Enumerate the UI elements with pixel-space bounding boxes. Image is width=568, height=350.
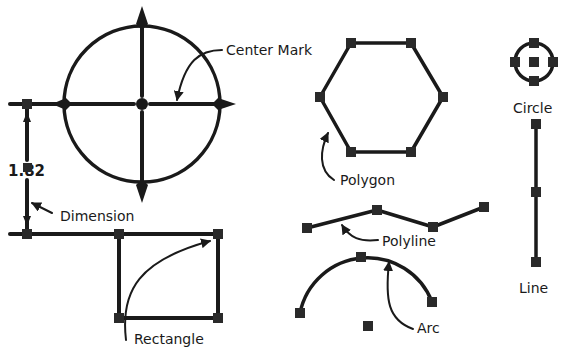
square-grip-icon[interactable] xyxy=(406,147,416,157)
square-grip-icon[interactable] xyxy=(346,147,356,157)
cad-grips-diagram: 1.82 xyxy=(0,0,568,350)
leader-polyline xyxy=(342,225,378,240)
square-grip-icon[interactable] xyxy=(372,205,382,215)
square-grip-icon[interactable] xyxy=(114,229,124,239)
hexagon-outline xyxy=(320,43,443,152)
square-grip-icon[interactable] xyxy=(346,38,356,48)
arc-shape xyxy=(295,252,437,331)
arc-path xyxy=(300,258,432,313)
line-shape xyxy=(531,119,541,267)
label-center-mark: Center Mark xyxy=(226,42,313,58)
square-grip-icon[interactable] xyxy=(114,313,124,323)
label-polyline: Polyline xyxy=(382,233,436,249)
label-rectangle: Rectangle xyxy=(134,331,204,347)
square-grip-icon[interactable] xyxy=(315,92,325,102)
square-grip-icon[interactable] xyxy=(406,38,416,48)
polyline-path xyxy=(307,207,484,228)
square-grip-icon[interactable] xyxy=(428,222,438,232)
leader-dimension xyxy=(32,203,52,213)
square-grip-icon[interactable] xyxy=(438,92,448,102)
square-grip-icon[interactable] xyxy=(529,38,539,48)
polygon-shape xyxy=(315,38,448,157)
circle-center-grip-icon[interactable] xyxy=(529,57,539,67)
arrowhead-icon[interactable] xyxy=(52,98,72,110)
square-grip-icon[interactable] xyxy=(356,252,366,262)
square-grip-icon[interactable] xyxy=(548,57,558,67)
circle-shape xyxy=(510,38,558,86)
dimension: 1.82 xyxy=(8,99,45,234)
rectangle-outline xyxy=(119,234,218,318)
square-grip-icon[interactable] xyxy=(427,297,437,307)
label-circle: Circle xyxy=(513,100,552,116)
polyline-shape xyxy=(302,202,489,233)
label-line: Line xyxy=(519,280,548,296)
square-grip-icon[interactable] xyxy=(302,223,312,233)
center-grip-icon[interactable] xyxy=(136,98,148,110)
square-grip-icon[interactable] xyxy=(531,119,541,129)
square-grip-icon[interactable] xyxy=(510,57,520,67)
leader-polygon xyxy=(322,133,334,180)
square-grip-icon[interactable] xyxy=(213,229,223,239)
leaders xyxy=(32,50,413,340)
arrowhead-icon xyxy=(23,112,31,122)
arrowhead-icon[interactable] xyxy=(212,98,236,110)
leader-rectangle xyxy=(125,241,210,340)
square-grip-icon[interactable] xyxy=(529,76,539,86)
square-grip-icon[interactable] xyxy=(22,99,32,109)
square-grip-icon[interactable] xyxy=(213,313,223,323)
square-grip-icon[interactable] xyxy=(22,229,32,239)
arrowhead-icon xyxy=(23,216,31,226)
square-grip-icon[interactable] xyxy=(479,202,489,212)
square-grip-icon[interactable] xyxy=(295,308,305,318)
rectangle-shape xyxy=(10,229,223,323)
label-arc: Arc xyxy=(417,320,440,336)
label-polygon: Polygon xyxy=(340,172,395,188)
square-grip-icon[interactable] xyxy=(23,163,32,172)
square-grip-icon[interactable] xyxy=(531,257,541,267)
arc-center-grip-icon[interactable] xyxy=(363,321,373,331)
label-dimension: Dimension xyxy=(60,208,134,224)
square-grip-icon[interactable] xyxy=(531,187,541,197)
